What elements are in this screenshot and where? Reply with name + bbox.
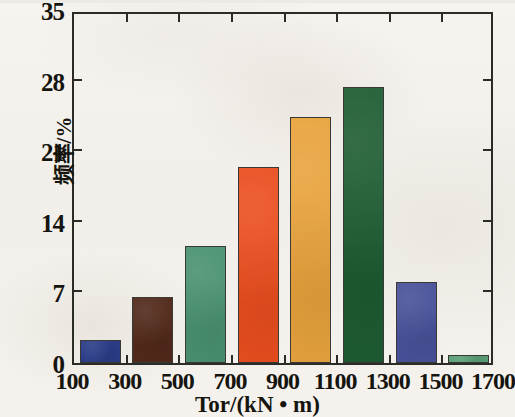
bar: [238, 167, 279, 363]
bar: [396, 282, 437, 363]
y-axis-tick-right: [483, 290, 491, 292]
plot-area: [72, 12, 493, 365]
x-axis-tick: [284, 355, 286, 363]
x-axis-tick-top: [284, 14, 286, 22]
y-axis-tick-label: 7: [2, 280, 64, 308]
x-axis-tick-top: [231, 14, 233, 22]
x-axis-tick-top: [336, 14, 338, 22]
y-axis-tick-right: [483, 79, 491, 81]
bar: [448, 355, 489, 363]
x-axis-tick-label: 500: [161, 368, 194, 395]
x-axis-tick: [231, 355, 233, 363]
y-axis-tick-label: 0: [2, 351, 64, 379]
bar: [343, 87, 384, 363]
bar-chart-figure: 0714212835 10030050070090011001300150017…: [0, 0, 515, 417]
x-axis-title: Tor/(kN • m): [0, 392, 515, 417]
x-axis-tick-label: 300: [108, 368, 141, 395]
page-crop-edge: [0, 0, 515, 3]
x-axis-tick-top: [178, 14, 180, 22]
x-axis-tick: [389, 355, 391, 363]
x-axis-tick-label: 1300: [366, 368, 410, 395]
x-axis-tick-top: [441, 14, 443, 22]
x-axis-tick: [441, 355, 443, 363]
y-axis-tick-label: 35: [2, 0, 64, 26]
x-axis-tick-label: 1500: [418, 368, 462, 395]
x-axis-tick: [336, 355, 338, 363]
x-axis-tick-label: 1100: [314, 368, 357, 395]
x-axis-tick-label: 900: [266, 368, 299, 395]
x-axis-tick-label: 700: [213, 368, 246, 395]
x-axis-tick: [178, 355, 180, 363]
bar: [80, 340, 121, 363]
y-axis-tick-right: [483, 149, 491, 151]
x-axis-tick: [126, 355, 128, 363]
bar: [290, 117, 331, 363]
y-axis-title: 频率/%: [47, 81, 77, 221]
x-axis-tick-label: 100: [56, 368, 89, 395]
x-axis-tick-top: [126, 14, 128, 22]
y-axis-tick: [74, 290, 82, 292]
x-axis-tick-label: 1700: [471, 368, 515, 395]
x-axis-tick-top: [389, 14, 391, 22]
bar: [132, 297, 173, 363]
y-axis-tick-right: [483, 220, 491, 222]
bar: [185, 246, 226, 363]
